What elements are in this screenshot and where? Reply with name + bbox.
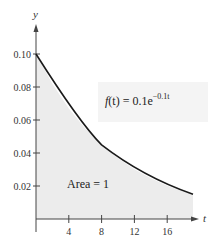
y-tick-label: 0.06 xyxy=(14,115,32,126)
x-tick-label: 16 xyxy=(162,226,172,237)
y-tick-label: 0.10 xyxy=(14,49,32,60)
y-axis-label: y xyxy=(32,8,38,20)
x-tick-label: 12 xyxy=(129,226,139,237)
x-tick-label: 4 xyxy=(66,226,71,237)
y-tick-label: 0.08 xyxy=(14,82,32,93)
area-annotation: Area = 1 xyxy=(67,177,109,191)
x-tick-label: 8 xyxy=(99,226,104,237)
chart: 4 8 12 16 0.02 0.04 0.06 0.08 0.10 t y f… xyxy=(0,0,218,247)
y-tick-label: 0.04 xyxy=(14,148,32,159)
y-tick-label: 0.02 xyxy=(14,181,32,192)
area-fill xyxy=(36,54,193,219)
y-axis-arrow-icon xyxy=(34,24,39,32)
x-axis-arrow-icon xyxy=(191,217,199,222)
x-axis-label: t xyxy=(203,212,207,224)
